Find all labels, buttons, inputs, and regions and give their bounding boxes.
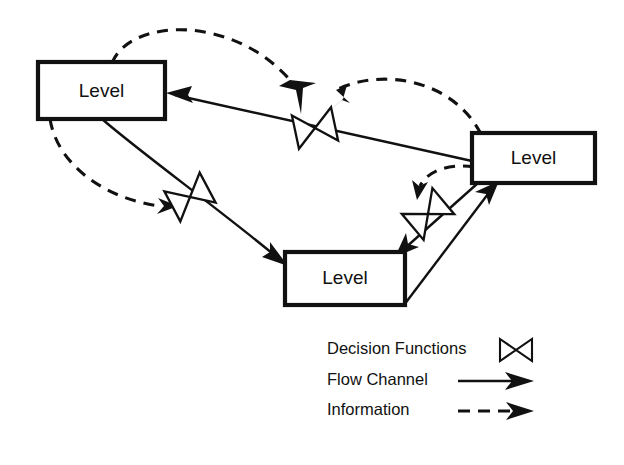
info-arrowhead <box>279 80 316 114</box>
level-box-label: Level <box>322 267 367 288</box>
flow-diagram: Level Level Level Decision Functions Flo… <box>0 0 624 465</box>
info-line-path <box>336 79 481 134</box>
decision-function-middle[interactable] <box>164 173 215 222</box>
valve-icon-bowtie <box>500 339 532 361</box>
info-link-left-to-valve-middle <box>50 119 178 214</box>
level-box-label: Level <box>511 147 556 168</box>
legend-item-flow-channel: Flow Channel <box>327 370 534 390</box>
dashed-arrow-icon-head <box>506 402 534 420</box>
legend-label-information: Information <box>327 400 410 418</box>
level-box-right[interactable]: Level <box>472 133 595 183</box>
level-box-left[interactable]: Level <box>38 62 165 119</box>
legend-item-decision-functions: Decision Functions <box>327 339 532 361</box>
flow-channel-bottom-to-right <box>404 181 499 305</box>
level-box-label: Level <box>79 80 124 101</box>
decision-function-right[interactable] <box>402 188 454 240</box>
level-box-bottom[interactable]: Level <box>285 252 405 305</box>
legend-label-decision-functions: Decision Functions <box>327 339 466 357</box>
legend: Decision Functions Flow Channel Informat… <box>327 339 534 420</box>
valve-bowtie <box>164 173 215 222</box>
decision-function-top[interactable] <box>292 107 338 149</box>
info-line-path <box>50 119 160 206</box>
valve-bowtie <box>292 107 338 149</box>
info-link-right-to-valve-top <box>321 79 481 134</box>
valve-bowtie <box>402 188 454 240</box>
valve-icon <box>500 339 532 361</box>
legend-item-information: Information <box>327 400 534 420</box>
info-line-path <box>420 166 474 186</box>
flow-arrowhead <box>166 86 193 103</box>
legend-label-flow-channel: Flow Channel <box>327 370 428 388</box>
diagram-canvas: Level Level Level Decision Functions Flo… <box>0 0 624 465</box>
flow-line-path <box>102 119 278 258</box>
